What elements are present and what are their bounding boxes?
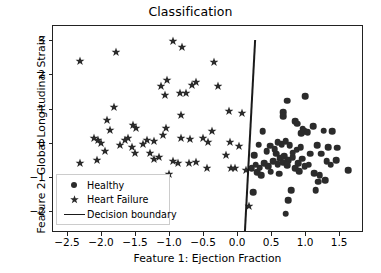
star-marker-icon [61,195,87,204]
data-point-healthy [321,127,328,134]
data-point-healthy [334,144,341,151]
data-point-healthy [259,128,266,135]
data-point-healthy [315,179,322,186]
y-tick-mark [49,40,53,41]
data-point-heart-failure [237,109,247,119]
data-point-heart-failure [203,138,213,148]
data-point-heart-failure [149,136,159,146]
y-tick-mark [49,177,53,178]
data-point-heart-failure [75,56,85,66]
x-tick-label: 1.0 [297,236,314,248]
data-point-heart-failure [173,159,183,169]
data-point-healthy [251,152,258,159]
data-point-heart-failure [160,90,170,100]
data-point-heart-failure [75,158,85,168]
data-point-heart-failure [130,148,140,158]
circle-marker-icon [61,182,87,188]
legend-item-healthy: Healthy [61,178,164,193]
data-point-heart-failure [176,110,186,120]
data-point-healthy [263,148,270,155]
data-point-heart-failure [111,47,121,57]
data-point-heart-failure [115,140,125,150]
x-tick-mark [135,232,136,236]
data-point-heart-failure [235,142,245,152]
data-point-healthy [327,162,334,169]
data-point-healthy [345,167,352,174]
data-point-healthy [289,149,296,156]
data-point-healthy [272,146,279,153]
legend-item-decision-boundary: Decision boundary [61,207,164,222]
data-point-heart-failure [244,202,254,212]
data-point-heart-failure [225,137,235,147]
x-tick-label: −1.5 [122,236,148,248]
data-point-heart-failure [105,125,115,135]
data-point-heart-failure [182,88,192,98]
y-axis-label: Feature 2: Global Longitudinal Strain [35,30,48,240]
x-tick-mark [339,232,340,236]
data-point-healthy [255,141,262,148]
data-point-healthy [329,128,336,135]
data-point-healthy [267,168,274,175]
data-point-heart-failure [202,163,212,173]
data-point-heart-failure [231,163,241,173]
data-point-heart-failure [103,116,113,126]
data-point-heart-failure [178,42,188,52]
x-tick-mark [101,232,102,236]
x-tick-label: 1.5 [331,236,348,248]
data-point-heart-failure [213,82,223,92]
x-tick-mark [67,232,68,236]
data-point-healthy [284,97,291,104]
data-point-heart-failure [242,166,252,176]
data-point-heart-failure [176,133,186,143]
legend-item-heart-failure: Heart Failure [61,193,164,208]
x-tick-mark [237,232,238,236]
data-point-healthy [297,144,304,151]
y-tick-mark [49,211,53,212]
legend: Healthy Heart Failure Decision boundary [56,174,170,225]
data-point-healthy [284,162,291,169]
line-marker-icon [61,214,87,215]
y-tick-mark [49,143,53,144]
x-tick-label: 0.5 [263,236,280,248]
data-point-healthy [280,113,287,120]
x-tick-mark [203,232,204,236]
y-tick-mark [49,109,53,110]
x-tick-label: −0.5 [190,236,216,248]
data-point-healthy [312,187,319,194]
x-tick-label: 0.0 [229,236,246,248]
legend-label-heart-failure: Heart Failure [87,194,148,205]
data-point-heart-failure [154,152,164,162]
data-point-heart-failure [92,155,102,165]
data-point-heart-failure [221,151,231,161]
data-point-heart-failure [138,140,148,150]
data-point-healthy [299,155,306,162]
legend-label-decision-boundary: Decision boundary [87,209,177,220]
data-point-heart-failure [186,134,196,144]
x-tick-label: −1.0 [156,236,182,248]
data-point-healthy [314,142,321,149]
data-point-healthy [301,163,308,170]
data-point-heart-failure [129,120,139,130]
data-point-heart-failure [207,127,217,137]
data-point-healthy [307,151,314,158]
data-point-healthy [322,177,329,184]
data-point-heart-failure [100,146,110,156]
data-point-heart-failure [156,81,166,91]
data-point-healthy [302,93,309,100]
data-point-healthy [288,187,295,194]
legend-label-healthy: Healthy [87,180,124,191]
chart-title: Classification [0,4,381,19]
data-point-heart-failure [110,102,120,112]
data-point-healthy [282,211,289,218]
data-point-healthy [258,172,265,179]
x-tick-label: −2.0 [88,236,114,248]
x-tick-mark [169,232,170,236]
data-point-heart-failure [209,57,219,67]
y-tick-mark [49,74,53,75]
data-point-healthy [276,170,283,177]
data-point-healthy [250,189,257,196]
x-tick-mark [271,232,272,236]
data-point-heart-failure [168,36,178,46]
data-point-healthy [318,151,325,158]
data-point-healthy [304,129,311,136]
